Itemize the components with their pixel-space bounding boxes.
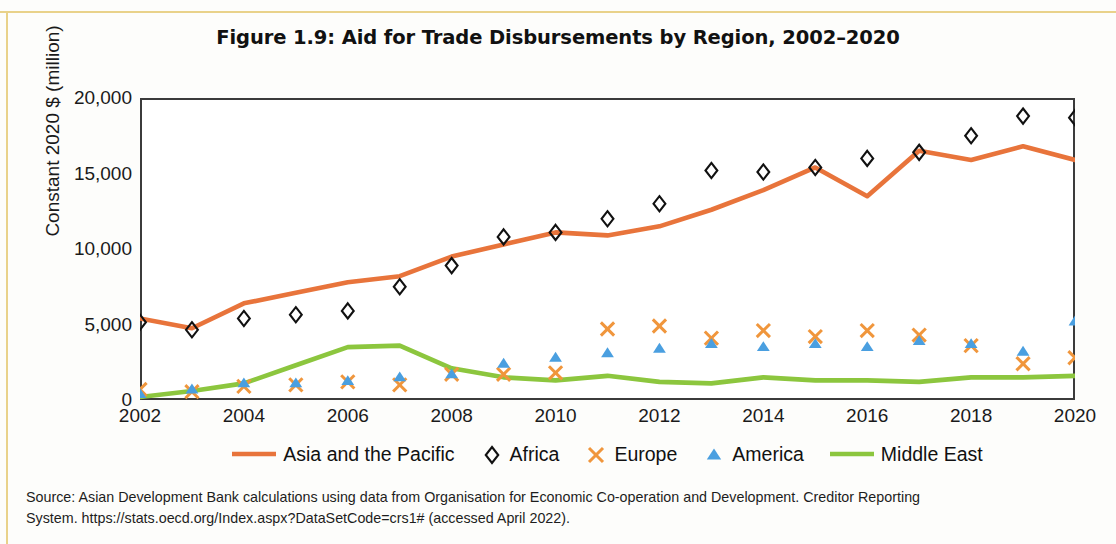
- legend-label: America: [732, 443, 804, 466]
- legend-item-middle-east[interactable]: Middle East: [830, 443, 983, 466]
- series-markers-europe: [140, 319, 1075, 398]
- data-point: [861, 151, 873, 166]
- legend-x-icon: [585, 445, 607, 463]
- data-point: [653, 319, 666, 332]
- chart-legend: Asia and the PacificAfricaEuropeAmericaM…: [140, 438, 1075, 470]
- x-tick-label: 2006: [327, 405, 369, 427]
- source-note-line-2: System. https://stats.oecd.org/Index.asp…: [26, 508, 1096, 529]
- x-tick-label: 2016: [846, 405, 888, 427]
- data-point: [861, 341, 874, 351]
- data-point: [549, 366, 562, 379]
- data-point: [757, 324, 770, 337]
- legend-item-asia-and-the-pacific[interactable]: Asia and the Pacific: [232, 443, 454, 466]
- x-tick-label: 2008: [431, 405, 473, 427]
- data-point: [1017, 346, 1030, 356]
- legend-line-swatch: [232, 445, 276, 463]
- data-point: [1069, 110, 1075, 125]
- data-point: [705, 163, 717, 178]
- data-point: [497, 358, 510, 368]
- data-point: [757, 341, 770, 351]
- series-plot: [140, 98, 1075, 400]
- source-note: Source: Asian Development Bank calculati…: [26, 487, 1096, 528]
- data-point: [654, 196, 666, 211]
- data-point: [290, 307, 302, 322]
- legend-item-europe[interactable]: Europe: [585, 443, 677, 466]
- data-point: [1069, 316, 1075, 326]
- legend-label: Asia and the Pacific: [283, 443, 454, 466]
- data-point: [601, 322, 614, 335]
- series-line-asia-and-the-pacific: [140, 146, 1075, 328]
- data-point: [1016, 357, 1029, 370]
- x-tick-label: 2018: [950, 405, 992, 427]
- source-note-line-1: Source: Asian Development Bank calculati…: [26, 487, 1096, 508]
- data-point: [602, 211, 614, 226]
- data-point: [393, 371, 406, 381]
- x-tick-label: 2002: [119, 405, 161, 427]
- legend-label: Europe: [614, 443, 677, 466]
- x-tick-label: 2010: [534, 405, 576, 427]
- data-point: [140, 315, 146, 330]
- data-point: [1068, 351, 1075, 364]
- data-point: [549, 352, 562, 362]
- figure-page: Figure 1.9: Aid for Trade Disbursements …: [0, 0, 1116, 544]
- data-point: [238, 311, 250, 326]
- legend-label: Africa: [510, 443, 560, 466]
- data-point: [861, 324, 874, 337]
- legend-item-africa[interactable]: Africa: [481, 443, 560, 466]
- legend-line-swatch: [830, 445, 874, 463]
- x-tick-label: 2014: [742, 405, 784, 427]
- data-point: [653, 343, 666, 353]
- data-point: [1017, 109, 1029, 124]
- legend-label: Middle East: [881, 443, 983, 466]
- data-point: [757, 164, 769, 179]
- legend-item-america[interactable]: America: [703, 443, 804, 466]
- series-markers-africa: [140, 109, 1075, 338]
- x-tick-label: 2020: [1054, 405, 1096, 427]
- data-point: [342, 303, 354, 318]
- data-point: [394, 279, 406, 294]
- x-tick-label: 2004: [223, 405, 265, 427]
- data-point: [965, 128, 977, 143]
- data-point: [601, 347, 614, 357]
- legend-diamond-icon: [481, 445, 503, 463]
- x-tick-label: 2012: [638, 405, 680, 427]
- legend-triangle-icon: [703, 445, 725, 463]
